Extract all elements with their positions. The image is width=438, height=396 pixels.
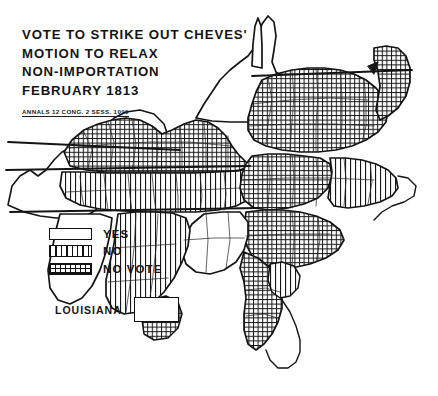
source-citation: ANNALS 12 CONG. 2 SESS. 1099 — [22, 108, 129, 117]
legend-label-no: NO — [103, 245, 122, 257]
legend-swatch-no — [49, 245, 92, 257]
area-georgia-coast-strip — [268, 262, 300, 298]
area-virginia — [248, 68, 388, 152]
title-line-1: VOTE TO STRIKE OUT CHEVES' — [22, 26, 237, 45]
area-north-carolina-east — [328, 158, 398, 208]
legend-item-no-vote: NO VOTE — [49, 261, 162, 276]
map-legend: YES NO NO VOTE — [49, 226, 162, 279]
legend-swatch-yes — [49, 228, 92, 240]
title-line-4: FEBRUARY 1813 — [22, 82, 237, 101]
legend-item-no: NO — [49, 244, 162, 259]
historical-vote-map: VOTE TO STRIKE OUT CHEVES' MOTION TO REL… — [0, 0, 438, 396]
map-title-block: VOTE TO STRIKE OUT CHEVES' MOTION TO REL… — [22, 26, 237, 118]
panhandle-spike — [252, 18, 262, 68]
louisiana-swatch — [134, 297, 179, 322]
legend-label-yes: YES — [103, 228, 129, 240]
louisiana-inset: LOUISIANA — [55, 297, 179, 322]
title-line-2: MOTION TO RELAX — [22, 45, 237, 64]
louisiana-label: LOUISIANA — [55, 304, 122, 316]
legend-item-yes: YES — [49, 226, 162, 241]
area-maryland-delaware — [374, 46, 410, 120]
legend-label-no-vote: NO VOTE — [103, 263, 162, 275]
area-georgia-north — [182, 212, 248, 274]
title-line-3: NON-IMPORTATION — [22, 63, 237, 82]
legend-swatch-no-vote — [49, 263, 92, 275]
